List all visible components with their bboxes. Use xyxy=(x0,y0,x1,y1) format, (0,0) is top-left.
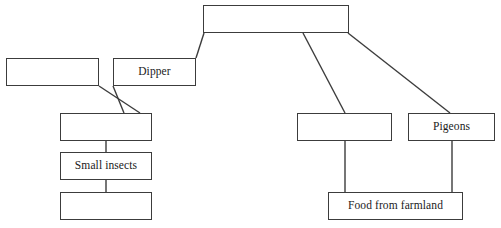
blank-box-left-mid[interactable] xyxy=(60,113,152,141)
blank-box-top[interactable] xyxy=(203,5,349,33)
food-web-diagram: DipperSmall insectsPigeonsFood from farm… xyxy=(0,0,501,228)
node-label-food-from-farmland: Food from farmland xyxy=(348,200,443,212)
node-box-dipper[interactable]: Dipper xyxy=(113,58,196,86)
connector-top-to-dipper xyxy=(196,33,204,58)
connector-left-upper-to-left-mid xyxy=(99,86,140,113)
connector-dipper-to-left-mid xyxy=(113,86,124,113)
node-box-small-insects[interactable]: Small insects xyxy=(60,152,152,180)
node-box-food-from-farmland[interactable]: Food from farmland xyxy=(328,192,463,220)
node-label-pigeons: Pigeons xyxy=(433,121,470,133)
node-label-small-insects: Small insects xyxy=(75,160,137,172)
blank-box-right-mid[interactable] xyxy=(297,113,392,141)
blank-box-left-bottom[interactable] xyxy=(60,192,152,220)
connector-top-to-pigeons xyxy=(348,33,450,113)
node-box-pigeons[interactable]: Pigeons xyxy=(408,113,495,141)
blank-box-left-upper[interactable] xyxy=(6,58,99,86)
node-label-dipper: Dipper xyxy=(138,66,171,78)
connector-top-to-right-mid xyxy=(303,33,345,113)
